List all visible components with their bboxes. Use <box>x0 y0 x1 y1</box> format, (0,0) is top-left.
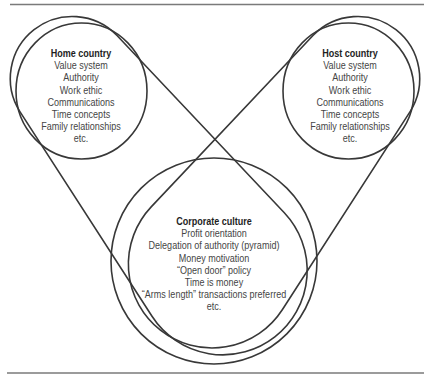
home-item: Value system <box>15 59 146 71</box>
corporate-item: Time is money <box>124 276 304 288</box>
host-country-title: Host country <box>284 47 415 59</box>
corporate-item: “Arms length” transactions preferred <box>124 288 304 300</box>
host-item: Time concepts <box>284 108 415 120</box>
host-item: Family relationships <box>284 120 415 132</box>
host-item: etc. <box>284 132 415 144</box>
corporate-item: Profit orientation <box>124 227 304 239</box>
home-item: Communications <box>15 96 146 108</box>
home-item: Work ethic <box>15 84 146 96</box>
home-item: etc. <box>15 132 146 144</box>
host-country-text: Host country Value system Authority Work… <box>284 47 415 145</box>
corporate-item: Money motivation <box>124 252 304 264</box>
home-item: Family relationships <box>15 120 146 132</box>
host-item: Value system <box>284 59 415 71</box>
host-item: Communications <box>284 96 415 108</box>
corporate-item: etc. <box>124 300 304 312</box>
home-country-title: Home country <box>15 47 146 59</box>
home-country-text: Home country Value system Authority Work… <box>15 47 146 145</box>
host-item: Authority <box>284 71 415 83</box>
corporate-item: Delegation of authority (pyramid) <box>124 239 304 251</box>
corporate-item: “Open door” policy <box>124 264 304 276</box>
home-item: Authority <box>15 71 146 83</box>
corporate-culture-title: Corporate culture <box>124 215 304 227</box>
home-item: Time concepts <box>15 108 146 120</box>
corporate-culture-text: Corporate culture Profit orientation Del… <box>124 215 304 313</box>
host-item: Work ethic <box>284 84 415 96</box>
